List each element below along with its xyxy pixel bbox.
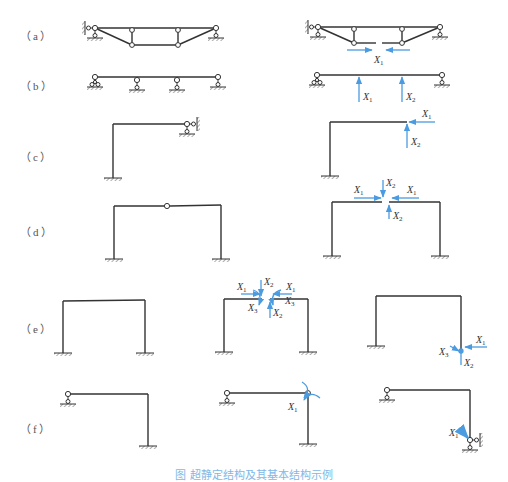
panel-e-basic-1 [224,299,308,352]
redundant-arrows [241,50,487,438]
label-b-x2: X2 [405,91,416,104]
label-a-x1: X1 [373,54,384,67]
label-e-x3-left: X3 [247,302,258,315]
panel-a-basic [318,27,440,43]
label-f2-x1: X1 [448,427,459,440]
panel-d-original [114,205,221,259]
label-d-x1-left: X1 [353,184,364,197]
redundant-labels: X1 X1 X2 X1 X2 X1 X1 X2 X2 X1 X1 X2 X2 X… [236,54,486,440]
panel-a-original [95,28,216,45]
label-e-x2-bottom: X2 [272,307,283,320]
label-d-x1-right: X1 [406,184,417,197]
panel-d-basic [332,202,440,256]
label-c-x1: X1 [421,108,432,121]
label-e-x3-right: X3 [284,295,295,308]
label-d-x2-bottom: X2 [392,210,403,223]
label-e2-x2: X2 [463,357,474,370]
panel-c-original [113,124,187,178]
label-f1-x1: X1 [287,401,298,414]
label-e2-x1: X1 [475,334,486,347]
label-e-x1-left: X1 [236,281,247,294]
panel-b-original [95,77,218,80]
panel-e-basic-2 [376,296,461,349]
label-b-x1: X1 [362,91,373,104]
hinge-icons [130,27,405,396]
support-icons [54,20,483,453]
label-e2-x3: X3 [438,346,449,359]
figure-caption: 图 超静定结构及其基本结构示例 [0,466,508,482]
panel-f-original [68,394,148,446]
label-d-x2-top: X2 [385,177,396,190]
label-c-x2: X2 [410,136,421,149]
panel-c-basic [330,122,407,176]
panel-f-basic-1 [227,393,308,444]
label-e-x2-top: X2 [263,276,274,289]
label-e-x1-right: X1 [285,281,296,294]
panel-e-original [63,300,145,353]
